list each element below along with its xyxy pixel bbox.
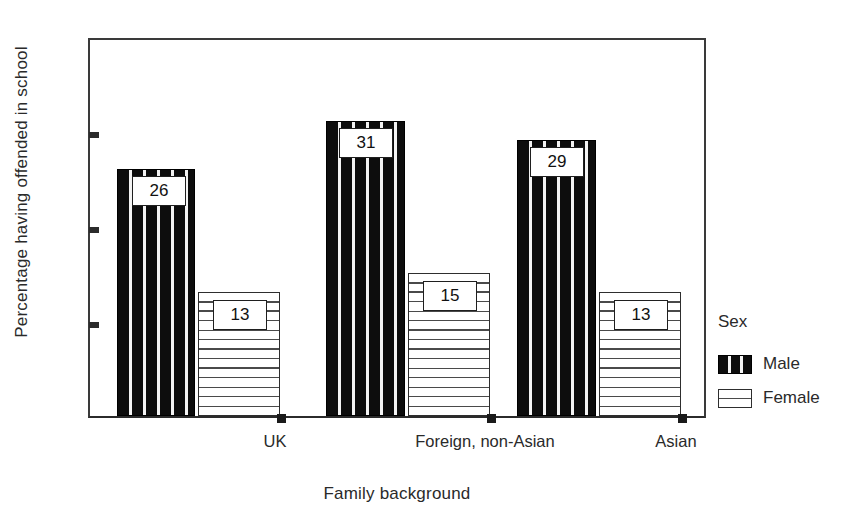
plot-area: 26 13 31 15 29 13 [88,38,706,418]
y-tick-30 [89,132,99,138]
x-tick-asian [678,414,687,423]
y-tick-10 [89,322,99,328]
legend-swatch-male-icon [718,355,752,374]
x-tick-uk [277,414,286,423]
data-label-foreign-male: 31 [339,128,393,158]
data-label-uk-male: 26 [132,176,186,206]
x-tick-foreign [487,414,496,423]
bar-uk-male[interactable] [117,169,195,416]
legend-title: Sex [718,312,842,332]
legend-item-female[interactable]: Female [718,388,842,408]
data-label-asian-female: 13 [614,300,668,330]
y-tick-20 [89,227,99,233]
legend-label-female: Female [763,388,820,408]
data-label-uk-female: 13 [213,300,267,330]
legend-label-male: Male [763,354,800,374]
x-category-label-asian: Asian [616,432,736,451]
legend-item-male[interactable]: Male [718,354,842,374]
legend: Sex Male Female [718,312,842,422]
x-axis-title: Family background [88,484,706,504]
x-category-label-uk: UK [215,432,335,451]
x-category-label-foreign: Foreign, non-Asian [395,432,575,451]
bar-foreign-male[interactable] [326,121,405,416]
data-label-asian-male: 29 [530,147,584,177]
data-label-foreign-female: 15 [423,281,477,311]
legend-swatch-female-icon [718,389,752,408]
bar-chart: Percentage having offended in school 40 … [0,0,844,522]
bar-asian-male[interactable] [517,140,596,416]
y-axis-title: Percentage having offended in school [12,0,32,402]
y-tick-40 [89,37,99,43]
